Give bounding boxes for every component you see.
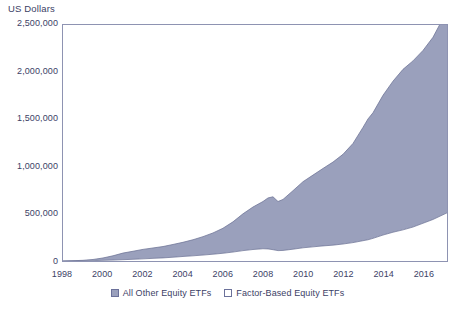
y-axis-tick-label: 500,000 xyxy=(25,208,58,218)
area-all-other-equity-etfs xyxy=(63,25,447,261)
y-axis-tick-label: 2,500,000 xyxy=(17,18,58,28)
area-series-svg xyxy=(63,25,447,261)
legend-swatch-icon xyxy=(111,289,119,297)
x-axis-tick-label: 2008 xyxy=(243,269,283,279)
x-axis-tick-label: 2004 xyxy=(163,269,203,279)
x-axis-tick-label: 2006 xyxy=(203,269,243,279)
x-axis-tick-label: 1998 xyxy=(42,269,82,279)
legend-swatch-icon xyxy=(224,289,232,297)
plot-area xyxy=(62,24,448,262)
y-axis-tick-label: 1,500,000 xyxy=(17,113,58,123)
legend-label: All Other Equity ETFs xyxy=(123,288,212,298)
y-axis-tick-label: 1,000,000 xyxy=(17,161,58,171)
chart-legend: All Other Equity ETFsFactor-Based Equity… xyxy=(0,288,455,298)
x-axis-tick-label: 2010 xyxy=(283,269,323,279)
x-axis-tick-label: 2012 xyxy=(323,269,363,279)
x-axis-tick-label: 2016 xyxy=(404,269,444,279)
legend-entry[interactable]: All Other Equity ETFs xyxy=(111,288,212,298)
x-axis-tick-label: 2002 xyxy=(122,269,162,279)
x-axis-tick-label: 2014 xyxy=(364,269,404,279)
legend-entry[interactable]: Factor-Based Equity ETFs xyxy=(224,288,344,298)
y-axis-tick-label: 0 xyxy=(53,256,58,266)
y-axis-caption: US Dollars xyxy=(8,3,55,14)
legend-label: Factor-Based Equity ETFs xyxy=(236,288,344,298)
x-axis-tick-label: 2000 xyxy=(82,269,122,279)
y-axis-tick-label: 2,000,000 xyxy=(17,66,58,76)
chart-container: US Dollars 0500,0001,000,0001,500,0002,0… xyxy=(0,0,455,311)
